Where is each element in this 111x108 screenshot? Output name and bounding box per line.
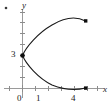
x-tick-label-1: 1: [36, 94, 41, 103]
upper-endpoint-marker: [84, 19, 87, 22]
y-axis-label: y: [22, 1, 26, 10]
parabola-lower-branch: [23, 56, 86, 90]
parabola-figure: y x 0 1 4 3: [0, 0, 111, 108]
vertex-point-marker: [20, 53, 25, 58]
lower-endpoint-marker: [84, 86, 87, 89]
x-axis-label: x: [103, 85, 107, 94]
x-tick-label-4: 4: [71, 94, 76, 103]
plot-canvas: [0, 0, 111, 108]
x-tick-label-0: 0: [17, 94, 22, 103]
corner-dot-marker: [5, 7, 8, 10]
y-tick-label-3: 3: [11, 50, 16, 59]
parabola-upper-branch: [23, 18, 86, 55]
